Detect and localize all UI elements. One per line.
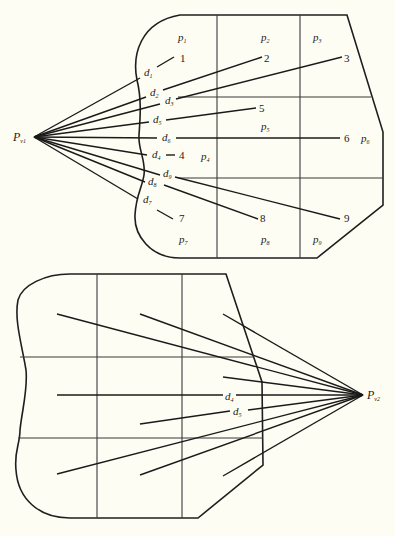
point-number-4: 4 (179, 149, 185, 161)
top-rays-near (34, 78, 160, 199)
cell-label-p8: p8 (260, 233, 270, 246)
cell-label-p7: p7 (178, 233, 189, 246)
d-label-5-bottom: d5 (233, 405, 242, 418)
top-diagram: Pv1 p1 p2 p3 p4 p5 p6 p7 p8 p9 1 2 3 5 6… (12, 15, 383, 258)
point-number-1: 1 (180, 52, 186, 64)
cell-label-p3: p3 (312, 31, 322, 44)
cell-label-p5: p5 (260, 120, 270, 133)
point-number-9: 9 (344, 212, 350, 224)
d-label-4: d4 (152, 148, 161, 161)
bottom-rays (57, 314, 363, 476)
perspective-diagram: Pv1 p1 p2 p3 p4 p5 p6 p7 p8 p9 1 2 3 5 6… (0, 0, 395, 536)
point-number-2: 2 (264, 52, 270, 64)
cell-label-p9: p9 (312, 233, 322, 246)
point-number-5: 5 (259, 102, 265, 114)
d-label-2: d2 (150, 86, 159, 99)
d-label-1: d1 (144, 66, 153, 79)
d-label-3: d3 (165, 94, 174, 107)
viewpoint-label-top: Pv1 (12, 130, 26, 144)
d-label-8: d8 (148, 175, 157, 188)
d-label-9: d9 (163, 167, 172, 180)
d-label-7: d7 (143, 193, 153, 206)
top-rays-far (157, 57, 342, 219)
cell-label-p4: p4 (200, 150, 210, 163)
d-label-4-bottom: d4 (225, 390, 234, 403)
viewpoint-label-bottom: Pv2 (366, 388, 380, 402)
bottom-diagram: Pv2 d4 d5 (16, 274, 380, 518)
cell-label-p2: p2 (260, 31, 270, 44)
cell-label-p1: p1 (177, 31, 187, 44)
point-number-3: 3 (344, 52, 350, 64)
point-number-7: 7 (179, 212, 185, 224)
point-number-6: 6 (344, 132, 350, 144)
d-label-5: d5 (153, 113, 162, 126)
d-label-6: d6 (162, 131, 171, 144)
point-number-8: 8 (260, 212, 266, 224)
cell-label-p6: p6 (360, 132, 370, 145)
